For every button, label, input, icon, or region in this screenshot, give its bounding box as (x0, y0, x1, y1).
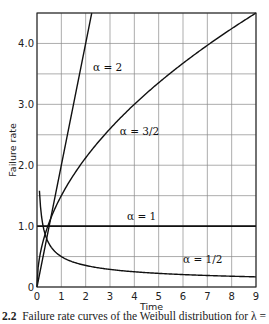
curve-label: α = 1/2 (183, 253, 222, 265)
curve-labels: α = 2α = 3/2α = 1α = 1/2 (93, 61, 223, 265)
grid-lines (37, 13, 256, 287)
curve-4 (39, 191, 256, 277)
figure-caption: 2.2 Failure rate curves of the Weibull d… (2, 310, 266, 322)
x-tick-label: 0 (34, 291, 40, 302)
x-tick-label: 8 (228, 291, 234, 302)
x-tick-label: 3 (107, 291, 113, 302)
plot-frame (37, 13, 256, 287)
y-tick-label: 4.0 (18, 38, 34, 49)
y-tick-label: 2.0 (18, 160, 34, 171)
x-tick-label: 4 (131, 291, 137, 302)
x-tick-label: 6 (180, 291, 186, 302)
x-tick-label: 9 (253, 291, 259, 302)
curves (37, 13, 256, 287)
figure-number: 2.2 (2, 310, 16, 322)
caption-text: Failure rate curves of the Weibull distr… (22, 310, 266, 322)
curve-2 (37, 13, 256, 287)
y-tick-label: 3.0 (18, 99, 34, 110)
y-axis-ticks: 01.02.03.04.0 (18, 38, 34, 293)
x-tick-label: 7 (204, 291, 210, 302)
x-axis-label: Time (139, 301, 163, 310)
x-tick-label: 2 (82, 291, 88, 302)
y-tick-label: 0 (28, 282, 34, 293)
curve-label: α = 2 (93, 61, 122, 73)
curve-label: α = 1 (127, 210, 156, 222)
y-axis-label: Failure rate (7, 123, 18, 177)
x-tick-label: 1 (58, 291, 64, 302)
weibull-failure-rate-chart: 0123456789 01.02.03.04.0 α = 2α = 3/2α =… (0, 0, 269, 310)
curve-label: α = 3/2 (120, 125, 159, 137)
y-tick-label: 1.0 (18, 221, 34, 232)
curve-1 (37, 13, 92, 287)
